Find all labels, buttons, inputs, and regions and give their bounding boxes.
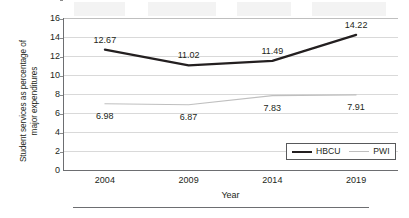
data-label-hbcu-2009: 11.02 <box>178 51 200 60</box>
x-axis-title: Year <box>63 190 398 200</box>
line-chart-figure: Student services as percentage of major … <box>0 0 409 218</box>
legend-entry-hbcu[interactable]: HBCU <box>292 147 340 156</box>
data-label-pwi-2014: 7.83 <box>264 103 282 112</box>
y-tick-mark-16 <box>60 0 63 1</box>
legend-label-pwi: PWI <box>373 147 389 156</box>
y-tick-mark-6 <box>60 95 63 96</box>
x-tick-label-2014: 2014 <box>247 175 297 185</box>
data-label-hbcu-2004: 12.67 <box>94 35 117 44</box>
y-tick-mark-12 <box>60 38 63 39</box>
x-tick-label-2019: 2019 <box>331 175 381 185</box>
y-tick-mark-2 <box>60 133 63 134</box>
data-label-pwi-2019: 7.91 <box>347 102 365 111</box>
x-tick-label-2009: 2009 <box>164 175 214 185</box>
y-tick-mark-4 <box>60 114 63 115</box>
legend-label-hbcu: HBCU <box>316 147 340 156</box>
y-tick-mark-14 <box>60 19 63 20</box>
y-tick-mark-8 <box>60 76 63 77</box>
y-tick-mark-10 <box>60 57 63 58</box>
x-axis-tick-labels: 2004200920142019 <box>63 175 398 187</box>
legend-swatch-pwi-icon <box>349 151 369 152</box>
data-label-hbcu-2014: 11.49 <box>261 46 283 55</box>
data-label-pwi-2004: 6.98 <box>96 111 114 120</box>
chart-legend: HBCU PWI <box>286 143 396 160</box>
x-tick-label-2004: 2004 <box>80 175 130 185</box>
legend-entry-pwi[interactable]: PWI <box>349 147 389 156</box>
page-horizontal-rule <box>73 207 369 208</box>
data-label-hbcu-2019: 14.22 <box>345 20 368 29</box>
data-label-pwi-2009: 6.87 <box>180 112 198 121</box>
legend-swatch-hbcu-icon <box>292 151 312 153</box>
y-tick-mark-0 <box>60 152 63 153</box>
